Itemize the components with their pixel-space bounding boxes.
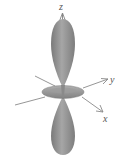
dz2-orbital-diagram: z y x (0, 0, 120, 160)
z-axis-label: z (58, 1, 63, 12)
y-axis-back (35, 76, 55, 86)
x-axis-back (15, 97, 45, 105)
y-axis-label: y (109, 74, 115, 85)
x-axis-label: x (102, 113, 108, 124)
x-axis (82, 97, 103, 112)
top-lobe (51, 19, 75, 88)
y-axis (83, 79, 108, 88)
bottom-lobe (51, 96, 75, 155)
